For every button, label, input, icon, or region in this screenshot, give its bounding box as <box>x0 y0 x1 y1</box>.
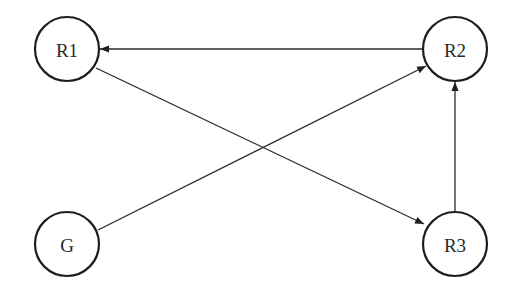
graph-canvas: R1 R2 G R3 <box>0 0 516 296</box>
node-g-label: G <box>60 235 74 256</box>
node-r3-label: R3 <box>444 235 466 256</box>
node-r3: R3 <box>423 212 487 276</box>
node-r1: R1 <box>35 17 99 81</box>
edge-g-to-r2 <box>98 66 426 230</box>
node-r2-label: R2 <box>444 40 466 61</box>
node-g: G <box>35 212 99 276</box>
node-r2: R2 <box>423 17 487 81</box>
node-r1-label: R1 <box>56 40 78 61</box>
